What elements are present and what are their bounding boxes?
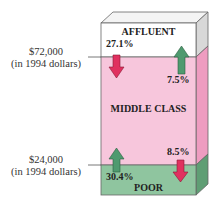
section-label-affluent: AFFLUENT — [101, 26, 196, 37]
threshold-upper-note: (in 1994 dollars) — [4, 58, 88, 70]
flow-middle-to-poor-value: 8.5% — [167, 146, 190, 157]
flow-affluent-to-middle-value: 27.1% — [106, 38, 134, 49]
threshold-lower-label: $24,000 (in 1994 dollars) — [4, 154, 88, 178]
threshold-upper-amount: $72,000 — [4, 46, 88, 58]
flow-poor-to-middle-value: 30.4% — [106, 171, 134, 182]
box-top-face — [101, 12, 208, 23]
threshold-upper-label: $72,000 (in 1994 dollars) — [4, 46, 88, 70]
threshold-lower-amount: $24,000 — [4, 154, 88, 166]
box-side-middle — [196, 46, 208, 165]
flow-middle-to-affluent-value: 7.5% — [167, 74, 190, 85]
section-label-poor: POOR — [101, 182, 196, 193]
section-label-middle-class: MIDDLE CLASS — [101, 103, 196, 114]
threshold-lower-note: (in 1994 dollars) — [4, 166, 88, 178]
